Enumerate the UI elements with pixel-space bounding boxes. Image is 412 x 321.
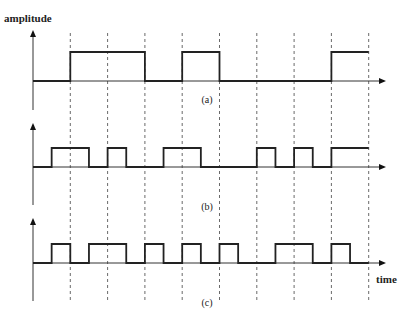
y-axis-label: amplitude <box>4 12 52 24</box>
waveforms <box>33 52 369 263</box>
caption-c: (c) <box>201 297 212 309</box>
waveform-a <box>33 52 369 81</box>
caption-b: (b) <box>201 201 213 213</box>
waveform-diagram: amplitude time (a) (b) (c) <box>0 0 412 321</box>
y-axis-arrow-icon <box>30 123 36 130</box>
x-axis-label: time <box>376 273 397 285</box>
axes <box>30 30 386 301</box>
x-axis-arrow-icon <box>379 78 386 84</box>
caption-a: (a) <box>201 94 212 106</box>
waveform-b <box>33 148 369 167</box>
y-axis-arrow-icon <box>30 218 36 225</box>
x-axis-arrow-icon <box>379 260 386 266</box>
waveform-c <box>33 244 369 263</box>
x-axis-arrow-icon <box>379 164 386 170</box>
y-axis-arrow-icon <box>30 30 36 37</box>
